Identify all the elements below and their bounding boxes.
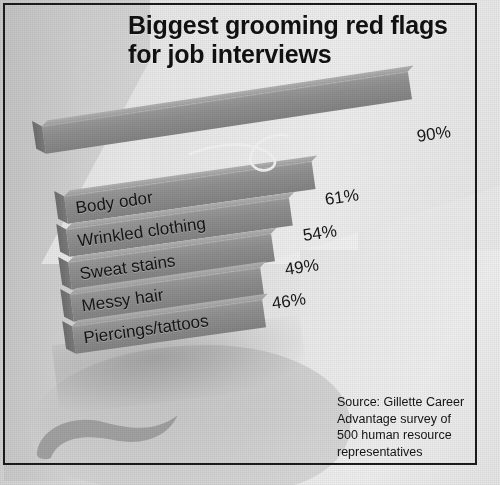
bar-value: 61% (324, 185, 360, 210)
bar-value: 90% (416, 122, 453, 147)
bar-side-face (32, 121, 46, 154)
bar-top-face (42, 66, 414, 127)
bar-value: 54% (302, 221, 338, 246)
source-credit: Source: Gillette Career Advantage survey… (337, 394, 473, 460)
bar-value: 49% (284, 255, 320, 280)
bar-shape (42, 71, 412, 153)
table-row (42, 71, 412, 153)
bar-top-face (64, 156, 317, 197)
bar-value: 46% (271, 289, 307, 314)
infographic-root: Biggest grooming red flags for job inter… (0, 0, 500, 485)
